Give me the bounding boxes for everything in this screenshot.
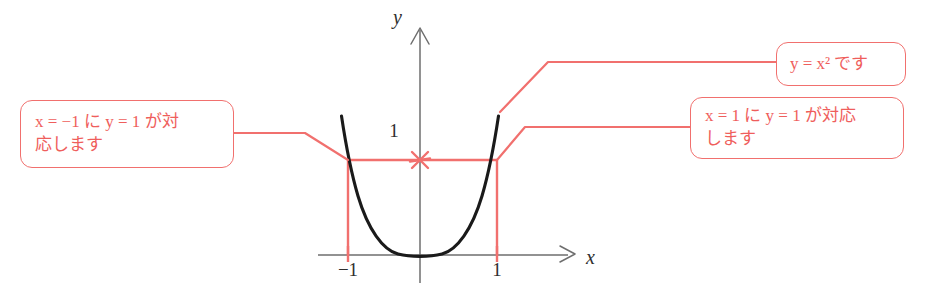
leader-line-bottom-right <box>497 127 690 160</box>
x-tick-label-minus-1: −1 <box>325 259 371 281</box>
figure-root: y x 1 −1 1 x = −1 に y = 1 が対 応します y = x²… <box>0 0 926 296</box>
y-axis-label: y <box>393 6 402 29</box>
callout-x-1-line-1: x = 1 に y = 1 が対応 <box>705 105 889 128</box>
axes-group <box>318 28 575 283</box>
callout-x-1-line-2: します <box>705 128 889 151</box>
x-axis-label: x <box>586 246 595 269</box>
leader-line-left <box>233 133 348 160</box>
callout-equation-line-1: y = x² です <box>790 53 892 76</box>
callout-x-minus-1-line-2: 応します <box>35 134 219 157</box>
callout-x-minus-1[interactable]: x = −1 に y = 1 が対 応します <box>20 100 234 168</box>
x-axis-arrowhead <box>560 246 575 262</box>
callout-equation[interactable]: y = x² です <box>776 42 906 86</box>
callout-x-minus-1-line-1: x = −1 に y = 1 が対 <box>35 111 219 134</box>
guide-lines-group <box>347 160 498 256</box>
y-tick-label-1: 1 <box>380 120 408 142</box>
callout-x-1[interactable]: x = 1 に y = 1 が対応 します <box>690 97 904 159</box>
x-tick-label-1: 1 <box>483 259 511 281</box>
